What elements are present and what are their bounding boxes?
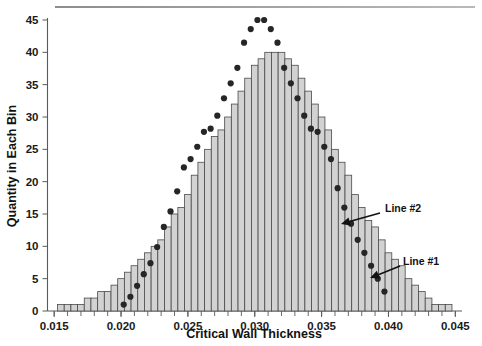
histogram-bar xyxy=(58,305,65,311)
overlay-data-point xyxy=(201,129,207,135)
histogram-bar xyxy=(258,59,265,311)
overlay-data-point xyxy=(221,95,227,101)
histogram-bar xyxy=(251,65,258,311)
histogram-bar xyxy=(425,298,432,311)
histogram-bar xyxy=(84,298,91,311)
y-tick-label: 5 xyxy=(32,273,39,285)
overlay-data-point xyxy=(214,113,220,119)
histogram-bar xyxy=(372,227,379,311)
histogram-bar xyxy=(385,253,392,311)
overlay-data-point xyxy=(127,294,133,300)
overlay-data-point xyxy=(355,237,361,243)
histogram-bar xyxy=(312,104,319,311)
overlay-data-point xyxy=(241,40,247,46)
histogram-bar xyxy=(111,285,118,311)
x-tick-label: 0.040 xyxy=(374,320,403,332)
y-axis-tick-label-group: 051015202530354045 xyxy=(26,14,39,317)
y-tick-label: 35 xyxy=(26,79,39,91)
histogram-bar xyxy=(164,227,171,311)
y-axis-tick-group xyxy=(43,20,48,311)
x-axis-title: Critical Wall Thickness xyxy=(186,327,322,341)
histogram-bar xyxy=(104,292,111,311)
histogram-bar xyxy=(412,285,419,311)
overlay-data-point xyxy=(141,271,147,277)
overlay-data-point xyxy=(154,244,160,250)
histogram-bar xyxy=(352,195,359,311)
histogram-bar xyxy=(211,136,218,311)
annotation-label: Line #1 xyxy=(403,255,439,267)
annotation-label: Line #2 xyxy=(385,202,421,214)
overlay-data-point xyxy=(321,144,327,150)
histogram-bar xyxy=(185,195,192,311)
histogram-bar xyxy=(378,240,385,311)
histogram-bar xyxy=(64,305,71,311)
histogram-bar xyxy=(205,149,212,311)
overlay-data-point xyxy=(134,283,140,289)
x-tick-label: 0.020 xyxy=(107,320,136,332)
overlay-data-point xyxy=(234,65,240,71)
histogram-bar xyxy=(292,65,299,311)
y-tick-label: 45 xyxy=(26,14,39,26)
histogram-bar xyxy=(71,305,78,311)
overlay-data-point xyxy=(308,126,314,132)
overlay-data-point xyxy=(288,80,294,86)
histogram-bar xyxy=(345,175,352,311)
y-tick-label: 10 xyxy=(26,240,39,252)
overlay-data-point xyxy=(361,250,367,256)
chart-figure: 051015202530354045 0.0150.0200.0250.0300… xyxy=(0,0,482,346)
histogram-bar xyxy=(419,292,426,311)
histogram-bar xyxy=(151,246,158,311)
overlay-data-point xyxy=(281,65,287,71)
histogram-bar xyxy=(405,279,412,311)
x-tick-label: 0.045 xyxy=(441,320,470,332)
overlay-data-point xyxy=(181,164,187,170)
histogram-bar xyxy=(191,175,198,311)
overlay-data-point xyxy=(254,17,260,23)
overlay-data-point xyxy=(228,80,234,86)
y-tick-label: 40 xyxy=(26,46,39,58)
overlay-data-point xyxy=(335,185,341,191)
y-tick-label: 15 xyxy=(26,208,39,220)
histogram-bar xyxy=(98,292,105,311)
overlay-data-point xyxy=(194,144,200,150)
y-tick-label: 0 xyxy=(32,305,38,317)
histogram-bar xyxy=(225,117,232,311)
histogram-chart-canvas: 051015202530354045 0.0150.0200.0250.0300… xyxy=(0,0,482,346)
overlay-data-point xyxy=(121,301,127,307)
overlay-data-point xyxy=(341,204,347,210)
overlay-data-point xyxy=(274,40,280,46)
overlay-data-point xyxy=(261,17,267,23)
histogram-bar xyxy=(198,162,205,311)
histogram-bar xyxy=(245,78,252,311)
overlay-data-point xyxy=(147,260,153,266)
histogram-bar xyxy=(439,305,446,311)
y-axis-title: Quantity in Each Bin xyxy=(5,105,19,227)
histogram-bar xyxy=(238,91,245,311)
overlay-data-point xyxy=(268,26,274,32)
histogram-bar xyxy=(231,104,238,311)
histogram-bar xyxy=(398,266,405,311)
overlay-data-point xyxy=(301,113,307,119)
histogram-bar-group xyxy=(58,52,452,311)
histogram-bar xyxy=(178,208,185,311)
y-tick-label: 25 xyxy=(26,143,39,155)
histogram-bar xyxy=(271,52,278,311)
histogram-bar xyxy=(338,162,345,311)
overlay-data-point xyxy=(208,126,214,132)
histogram-bar xyxy=(218,130,225,311)
histogram-bar xyxy=(285,59,292,311)
histogram-bar xyxy=(358,208,365,311)
x-tick-label: 0.015 xyxy=(40,320,69,332)
overlay-data-point xyxy=(174,188,180,194)
histogram-bar xyxy=(171,214,178,311)
x-axis-tick-group xyxy=(54,311,455,317)
histogram-bar xyxy=(91,298,98,311)
histogram-bar xyxy=(265,52,272,311)
overlay-data-point xyxy=(161,224,167,230)
overlay-data-point xyxy=(381,289,387,295)
overlay-data-point xyxy=(314,129,320,135)
histogram-bar xyxy=(332,149,339,311)
overlay-data-point xyxy=(368,263,374,269)
overlay-data-point xyxy=(294,95,300,101)
y-tick-label: 30 xyxy=(26,111,39,123)
